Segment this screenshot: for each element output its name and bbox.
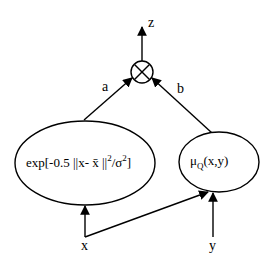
- input-y-label: y: [209, 238, 216, 253]
- edge-b-label: b: [177, 81, 184, 96]
- gaussian-formula: exp[-0.5 ||x- x̄ ||2/σ2]: [26, 153, 131, 170]
- edge-a-label: a: [102, 79, 109, 94]
- product-node: [131, 61, 153, 83]
- output-label: z: [148, 15, 154, 30]
- input-x-label: x: [81, 238, 88, 253]
- diagram-canvas: z a b exp[-0.5 ||x- x̄ ||2/σ2] μQ(x,y) x…: [0, 0, 263, 269]
